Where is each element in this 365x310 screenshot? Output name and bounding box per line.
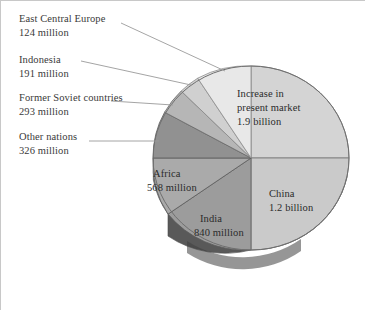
slice-label-increase-line2: present market (237, 102, 301, 113)
callout-label-value: 293 million (19, 105, 123, 119)
callout-label-value: 124 million (19, 26, 105, 40)
callout-label-value: 326 million (19, 144, 77, 158)
callout-label-name: Former Soviet countries (19, 91, 123, 105)
callout-former-soviet-countries: Former Soviet countries 293 million (19, 91, 123, 118)
callout-label-value: 191 million (19, 67, 69, 81)
slice-label-india-name: India (200, 213, 222, 224)
slice-label-africa-value: 568 million (147, 182, 197, 193)
callout-label-name: Indonesia (19, 53, 69, 67)
slice-label-increase-value: 1.9 billion (237, 116, 282, 127)
slice-label-india-value: 840 million (194, 227, 244, 238)
pie-chart-figure: Increase in present market 1.9 billion C… (0, 0, 365, 310)
slice-label-increase-line1: Increase in (237, 88, 285, 99)
callout-east-central-europe: East Central Europe 124 million (19, 12, 105, 39)
callout-other-nations: Other nations 326 million (19, 130, 77, 157)
callout-label-name: Other nations (19, 130, 77, 144)
leader-line-indonesia (81, 61, 191, 85)
slice-label-china-value: 1.2 billion (269, 202, 314, 213)
callout-indonesia: Indonesia 191 million (19, 53, 69, 80)
callout-label-name: East Central Europe (19, 12, 105, 26)
slice-label-china-name: China (269, 188, 295, 199)
leader-line-east-central-europe (121, 23, 225, 71)
slice-label-africa-name: Africa (153, 168, 181, 179)
